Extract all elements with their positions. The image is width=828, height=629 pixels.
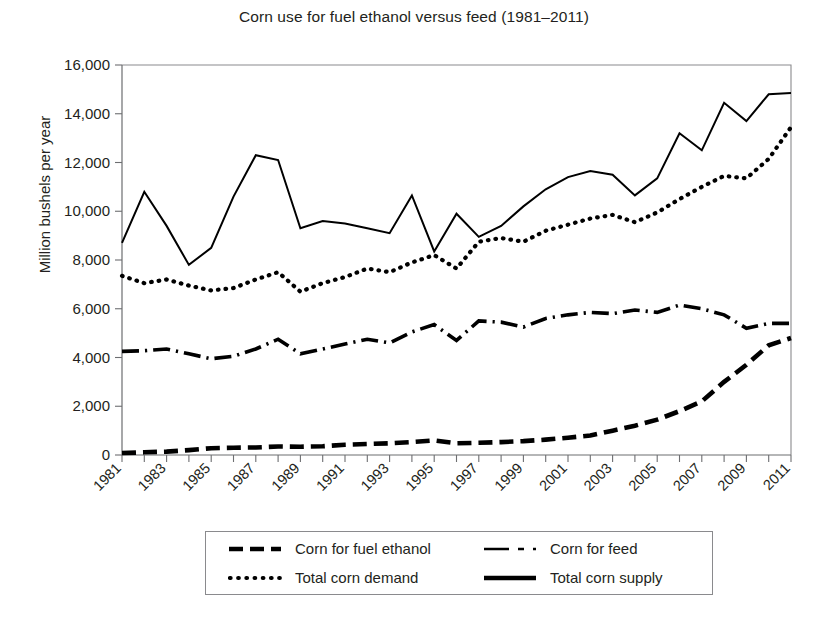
chart-figure: Corn use for fuel ethanol versus feed (1… [0,0,828,629]
legend-item-corn-for-feed[interactable]: Corn for feed [471,534,714,563]
legend-item-corn-for-fuel-ethanol[interactable]: Corn for fuel ethanol [206,534,471,563]
x-tick-label: 2003 [581,460,615,494]
x-tick-label: 2011 [760,460,793,493]
legend-label: Corn for fuel ethanol [295,540,431,557]
y-tick-label: 12,000 [64,154,110,171]
y-tick-label: 8,000 [72,251,110,268]
plot-area: 16,00014,00012,00010,0008,0006,0004,0002… [0,0,828,529]
legend-label: Total corn supply [550,569,663,586]
x-tick-label: 2007 [670,460,704,494]
y-tick-label: 6,000 [72,300,110,317]
thick-dashed-swatch-icon [228,542,282,556]
x-tick-label: 2009 [714,460,748,494]
solid-swatch-icon [483,571,537,585]
x-tick-label: 1997 [447,460,481,494]
x-tick-label: 1991 [313,460,347,494]
x-tick-label: 1999 [491,460,525,494]
x-tick-label: 1993 [358,460,392,494]
chart-legend: Corn for fuel ethanol Corn for feed Tota… [205,531,713,595]
plot-frame [122,65,791,455]
dotted-swatch-icon [228,571,282,585]
legend-item-total-corn-demand[interactable]: Total corn demand [206,563,471,592]
dash-dot-swatch-icon [483,542,537,556]
legend-item-total-corn-supply[interactable]: Total corn supply [471,563,714,592]
axes [122,65,791,455]
series-total-corn-demand [122,127,791,292]
series-total-corn-supply [122,93,791,265]
x-tick-label: 1989 [268,460,302,494]
x-tick-label: 1981 [90,460,124,494]
y-tick-label: 16,000 [64,56,110,73]
y-tick-label: 10,000 [64,202,110,219]
y-tick-label: 14,000 [64,105,110,122]
series-corn-for-feed [122,305,791,359]
x-tick-label: 1985 [179,460,213,494]
x-tick-label: 2005 [625,460,659,494]
legend-label: Corn for feed [550,540,638,557]
x-tick-label: 1983 [135,460,169,494]
x-tick-label: 1995 [402,460,436,494]
x-tick-label: 2001 [536,460,570,494]
legend-label: Total corn demand [295,569,418,586]
y-tick-label: 0 [102,446,110,463]
series-corn-for-fuel-ethanol [122,338,791,453]
x-tick-label: 1987 [224,460,258,494]
y-tick-label: 2,000 [72,397,110,414]
y-tick-label: 4,000 [72,349,110,366]
